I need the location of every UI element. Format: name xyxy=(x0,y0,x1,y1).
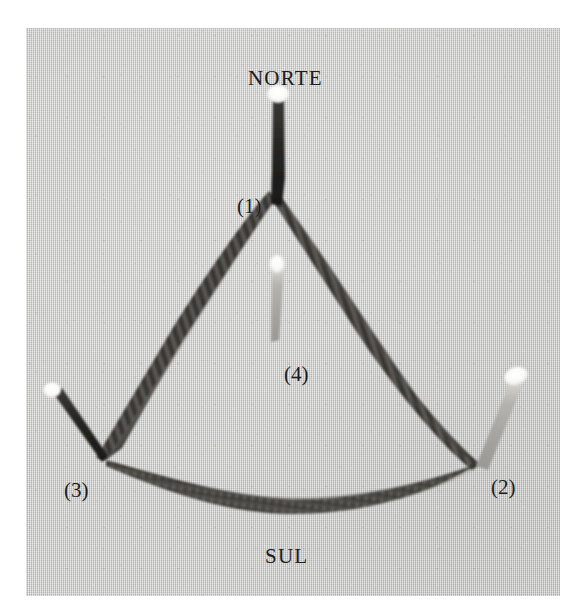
north-match xyxy=(267,85,289,206)
callout-label-2: (2) xyxy=(491,475,516,500)
label-sul: SUL xyxy=(265,544,308,569)
center-match xyxy=(270,255,285,342)
southeast-match xyxy=(476,363,530,470)
callout-label-3: (3) xyxy=(64,478,89,503)
label-norte: NORTE xyxy=(248,66,323,91)
southwest-match-head xyxy=(43,383,61,398)
callout-label-4: (4) xyxy=(284,362,309,387)
center-match-head xyxy=(270,255,285,273)
triangle-side-left xyxy=(96,191,276,460)
callout-label-1: (1) xyxy=(237,194,262,219)
triangle-side-right xyxy=(275,198,480,470)
triangle-side-bottom xyxy=(106,460,478,514)
southeast-match-head xyxy=(502,363,531,388)
southwest-match xyxy=(43,383,108,463)
photograph: NORTE SUL (1) (2) (3) (4) xyxy=(26,28,560,596)
specimen-overlay xyxy=(26,28,560,596)
figure-root: NORTE SUL (1) (2) (3) (4) xyxy=(0,0,587,614)
